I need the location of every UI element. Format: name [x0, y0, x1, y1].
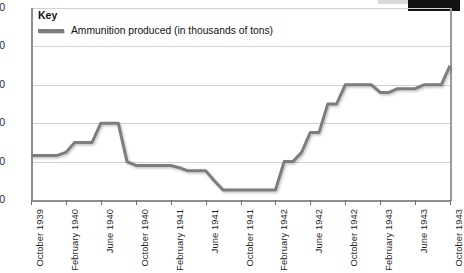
legend-entry: Ammunition produced (in thousands of ton… — [38, 25, 310, 36]
x-tick-4 — [171, 200, 172, 205]
x-tick-10 — [380, 200, 381, 205]
x-tick-label-8: June 1942 — [314, 209, 324, 253]
x-tick-1 — [66, 200, 67, 205]
x-tick-12 — [450, 200, 451, 205]
x-tick-label-11: June 1943 — [419, 209, 429, 253]
x-tick-8 — [310, 200, 311, 205]
x-tick-9 — [345, 200, 346, 205]
x-tick-2 — [101, 200, 102, 205]
x-tick-label-10: February 1943 — [384, 209, 394, 271]
x-tick-5 — [206, 200, 207, 205]
x-tick-label-4: February 1941 — [175, 209, 185, 271]
y-tick-label-100: 100 — [0, 117, 5, 127]
y-tick-label-150: 150 — [0, 79, 5, 89]
y-tick-label-50: 50 — [0, 156, 5, 166]
x-tick-0 — [31, 200, 32, 205]
x-tick-label-2: June 1940 — [105, 209, 115, 253]
legend: Key Ammunition produced (in thousands of… — [38, 9, 310, 43]
x-tick-7 — [275, 200, 276, 205]
legend-label: Ammunition produced (in thousands of ton… — [71, 25, 273, 36]
legend-title: Key — [38, 9, 310, 21]
x-tick-label-7: February 1942 — [279, 209, 289, 271]
x-tick-11 — [415, 200, 416, 205]
x-tick-label-3: October 1940 — [140, 209, 150, 267]
x-tick-label-5: June 1941 — [210, 209, 220, 253]
y-tick-label-200: 200 — [0, 40, 5, 50]
y-tick-label-0: 0 — [0, 194, 5, 204]
x-tick-label-6: October 1941 — [245, 209, 255, 267]
x-tick-label-9: October 1942 — [349, 209, 359, 267]
y-tick-label-250: 250 — [0, 2, 5, 12]
x-tick-label-1: February 1940 — [70, 209, 80, 271]
x-tick-label-0: October 1939 — [35, 209, 45, 267]
x-tick-6 — [241, 200, 242, 205]
legend-swatch-icon — [38, 29, 64, 33]
x-tick-3 — [136, 200, 137, 205]
x-tick-label-12: October 1943 — [454, 209, 464, 267]
